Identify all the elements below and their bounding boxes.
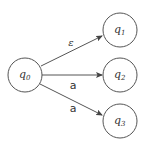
state-q0: q0 <box>8 58 42 92</box>
transition-label-q0-q2: a <box>70 79 77 92</box>
transition-label-q0-q1: ε <box>68 37 73 48</box>
transition-label-q0-q3: a <box>70 102 77 115</box>
nfa-diagram: ε a a q0 q1 q2 q3 <box>0 0 145 146</box>
state-q1: q1 <box>103 13 137 47</box>
state-q2: q2 <box>103 58 137 92</box>
state-q3: q3 <box>103 104 137 138</box>
